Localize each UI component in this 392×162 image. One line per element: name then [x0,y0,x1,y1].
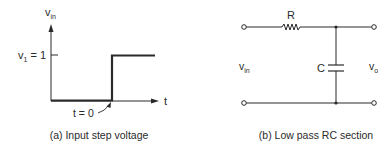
rc-circuit: R C vin vo (b) Low pass RC section [239,9,378,141]
y-axis-label: vin [45,6,56,20]
junction-bottom [334,101,337,104]
resistor-label: R [287,9,295,21]
caption-a: (a) Input step voltage [50,129,149,141]
step-waveform [51,56,155,101]
input-terminal-top [242,25,247,30]
output-voltage-label: vo [369,60,378,74]
output-terminal-top [372,25,377,30]
input-voltage-label: vin [239,60,250,74]
y-axis-arrow-icon [49,24,54,32]
caption-b: (b) Low pass RC section [259,129,374,141]
resistor-icon [282,24,302,30]
step-voltage-plot: vin v1 = 1 t t = 0 (a) Input step voltag… [18,6,167,141]
x-axis-label: t [164,95,167,107]
x-axis-arrow-icon [151,99,159,104]
step-time-label: t = 0 [73,107,94,119]
capacitor-label: C [317,62,325,74]
input-terminal-bottom [242,101,247,106]
output-terminal-bottom [372,101,377,106]
figure-canvas: vin v1 = 1 t t = 0 (a) Input step voltag… [0,0,392,162]
level-label: v1 = 1 [18,49,46,63]
